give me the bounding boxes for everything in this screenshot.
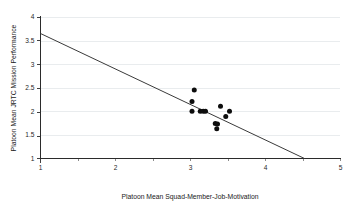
data-point bbox=[215, 122, 220, 127]
x-tick-label: 4 bbox=[264, 164, 268, 171]
y-axis-ticks bbox=[37, 17, 41, 159]
plot-canvas: 11.522.533.54 12345 Platoon Mean Squad-M… bbox=[0, 0, 357, 211]
x-tick-labels: 12345 bbox=[39, 164, 343, 171]
y-tick-label: 2.5 bbox=[25, 84, 34, 91]
y-tick-label: 2 bbox=[31, 108, 35, 115]
axes bbox=[40, 16, 341, 159]
regression-trend-line bbox=[41, 34, 305, 159]
data-point bbox=[192, 88, 197, 93]
y-tick-label: 3.5 bbox=[25, 37, 34, 44]
data-point bbox=[190, 109, 195, 114]
x-axis-ticks bbox=[41, 159, 341, 164]
x-axis-title: Platoon Mean Squad-Member-Job-Motivation bbox=[121, 193, 258, 201]
data-point bbox=[227, 109, 232, 114]
scatter-plot-figure: 11.522.533.54 12345 Platoon Mean Squad-M… bbox=[0, 0, 357, 211]
data-point bbox=[223, 114, 228, 119]
x-tick-label: 2 bbox=[114, 164, 118, 171]
x-tick-label: 3 bbox=[189, 164, 193, 171]
y-tick-label: 1 bbox=[31, 155, 35, 162]
data-point bbox=[218, 104, 223, 109]
y-gridlines bbox=[40, 17, 340, 135]
data-point bbox=[190, 99, 195, 104]
y-tick-label: 4 bbox=[31, 13, 35, 20]
data-points-group bbox=[190, 88, 233, 132]
data-point bbox=[203, 109, 208, 114]
y-axis-title: Platoon Mean JRTC Mission Performance bbox=[10, 24, 17, 151]
data-point bbox=[214, 126, 219, 131]
y-tick-labels: 11.522.533.54 bbox=[25, 13, 35, 162]
x-tick-label: 5 bbox=[339, 164, 343, 171]
y-tick-label: 1.5 bbox=[25, 131, 34, 138]
y-tick-label: 3 bbox=[31, 61, 35, 68]
x-tick-label: 1 bbox=[39, 164, 43, 171]
